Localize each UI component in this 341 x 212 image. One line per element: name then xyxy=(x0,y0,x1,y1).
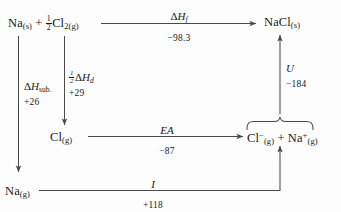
label-ionization-energy: I xyxy=(133,173,173,193)
label-electron-affinity: EA xyxy=(142,119,192,139)
chlorine-gas-state: (g) xyxy=(62,135,72,145)
born-haber-cycle-diagram: Na(s) + 1 2 Cl2(g) NaCl(s) Cl(g) Na(g) C… xyxy=(0,0,341,212)
reactant-sodium-solid: Na(s) xyxy=(8,16,32,30)
reactant-plus-sign: + xyxy=(35,16,42,30)
label-sublimation-value: +26 xyxy=(24,90,39,110)
label-electron-affinity-value: −87 xyxy=(142,139,192,159)
label-dissociation-value: +29 xyxy=(69,81,84,101)
sodium-gas-formula: Na xyxy=(5,184,20,198)
brace-ion-pair xyxy=(247,117,313,130)
node-reactants: Na(s) + 1 2 Cl2(g) xyxy=(8,15,79,32)
electron-affinity-symbol: EA xyxy=(160,124,173,136)
node-product-nacl: NaCl(s) xyxy=(264,15,300,30)
formation-symbol: ΔHf xyxy=(170,10,187,22)
sodium-gas-state: (g) xyxy=(20,189,30,199)
label-lattice-energy-value: −184 xyxy=(286,72,306,92)
chloride-ion: Cl−(g) xyxy=(247,131,274,145)
sodium-ion: Na+(g) xyxy=(288,131,318,145)
node-gaseous-ions: Cl−(g) + Na+(g) xyxy=(247,130,318,146)
stoich-half-fraction: 1 2 xyxy=(46,15,52,32)
node-sodium-gas: Na(g) xyxy=(5,184,30,199)
label-ionization-value: +118 xyxy=(133,193,173,212)
node-chlorine-gas: Cl(g) xyxy=(50,130,72,145)
chlorine-gas-formula: Cl xyxy=(50,130,62,144)
ionization-symbol: I xyxy=(151,178,155,190)
reactant-chlorine-gas: Cl2(g) xyxy=(52,16,79,30)
product-state: (s) xyxy=(291,20,300,30)
ions-plus-sign: + xyxy=(277,131,284,145)
label-formation-enthalpy: ΔHf xyxy=(150,5,208,25)
label-formation-value: −98.3 xyxy=(150,26,208,46)
product-formula: NaCl xyxy=(264,15,291,29)
